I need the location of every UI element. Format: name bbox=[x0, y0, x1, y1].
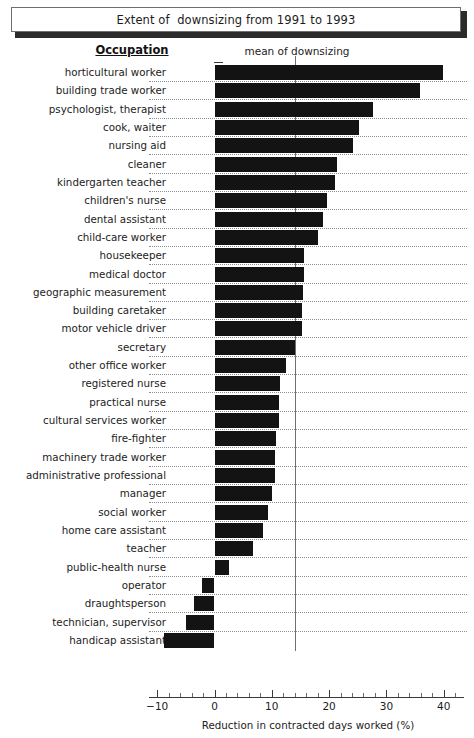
bar bbox=[215, 450, 276, 465]
bar bbox=[215, 505, 269, 520]
bar-row: manager bbox=[0, 485, 474, 503]
bar bbox=[215, 248, 305, 263]
bar-category-label: medical doctor bbox=[0, 268, 166, 280]
bar-row: children's nurse bbox=[0, 192, 474, 210]
x-axis-minor-tick bbox=[375, 693, 376, 697]
bar bbox=[215, 541, 254, 556]
bar-chart-plot-area: horticultural workerbuilding trade worke… bbox=[0, 0, 474, 738]
bar-category-label: teacher bbox=[0, 542, 166, 554]
x-axis-major-tick bbox=[157, 690, 158, 697]
bar bbox=[215, 157, 337, 172]
x-axis-tick-label: 0 bbox=[195, 700, 235, 712]
bar-category-label: handicap assistant bbox=[0, 634, 166, 646]
bar-category-label: fire-fighter bbox=[0, 432, 166, 444]
bar bbox=[215, 303, 302, 318]
bar-category-label: horticultural worker bbox=[0, 66, 166, 78]
x-axis-minor-tick bbox=[409, 693, 410, 697]
bar-row: motor vehicle driver bbox=[0, 320, 474, 338]
bar-row: operator bbox=[0, 577, 474, 595]
axis-top-cap bbox=[214, 62, 223, 63]
bar-category-label: cook, waiter bbox=[0, 121, 166, 133]
bar bbox=[215, 212, 323, 227]
bar-category-label: building trade worker bbox=[0, 84, 166, 96]
bar bbox=[215, 175, 336, 190]
x-axis-minor-tick bbox=[306, 693, 307, 697]
bar-row: machinery trade worker bbox=[0, 449, 474, 467]
bar bbox=[215, 267, 305, 282]
bar-row: teacher bbox=[0, 540, 474, 558]
x-axis-major-tick bbox=[444, 690, 445, 697]
bar-row: home care assistant bbox=[0, 522, 474, 540]
x-axis-minor-tick bbox=[318, 693, 319, 697]
bar bbox=[215, 395, 280, 410]
bar bbox=[215, 523, 263, 538]
bar-category-label: home care assistant bbox=[0, 524, 166, 536]
bar bbox=[215, 230, 318, 245]
x-axis-major-tick bbox=[215, 690, 216, 697]
bar-row: psychologist, therapist bbox=[0, 101, 474, 119]
x-axis-minor-tick bbox=[398, 693, 399, 697]
x-axis-minor-tick bbox=[283, 693, 284, 697]
x-axis-minor-tick bbox=[203, 693, 204, 697]
bar-category-label: administrative professional bbox=[0, 469, 166, 481]
bar bbox=[215, 193, 328, 208]
bar-category-label: registered nurse bbox=[0, 377, 166, 389]
x-axis-minor-tick bbox=[432, 693, 433, 697]
bar-category-label: draughtsperson bbox=[0, 597, 166, 609]
bar bbox=[215, 468, 275, 483]
x-axis-minor-tick bbox=[249, 693, 250, 697]
bar-category-label: dental assistant bbox=[0, 213, 166, 225]
bar-category-label: technician, supervisor bbox=[0, 616, 166, 628]
bar-category-label: other office worker bbox=[0, 359, 166, 371]
bar-category-label: psychologist, therapist bbox=[0, 103, 166, 115]
bar-row: nursing aid bbox=[0, 137, 474, 155]
bar bbox=[215, 65, 443, 80]
bar bbox=[194, 596, 214, 611]
bar bbox=[215, 431, 277, 446]
bar-category-label: kindergarten teacher bbox=[0, 176, 166, 188]
bar bbox=[215, 413, 280, 428]
x-axis-minor-tick bbox=[169, 693, 170, 697]
bar-row: housekeeper bbox=[0, 247, 474, 265]
bar bbox=[164, 633, 215, 648]
bar-category-label: cultural services worker bbox=[0, 414, 166, 426]
x-axis-line bbox=[149, 697, 464, 698]
x-axis-minor-tick bbox=[192, 693, 193, 697]
bar-row: cook, waiter bbox=[0, 119, 474, 137]
x-axis-label: Reduction in contracted days worked (%) bbox=[152, 719, 464, 731]
bar bbox=[215, 340, 295, 355]
bar-row: building caretaker bbox=[0, 302, 474, 320]
bar-category-label: operator bbox=[0, 579, 166, 591]
bar-row: cleaner bbox=[0, 156, 474, 174]
x-axis-minor-tick bbox=[180, 693, 181, 697]
bar-row: practical nurse bbox=[0, 394, 474, 412]
bar-row: handicap assistant bbox=[0, 632, 474, 650]
bar bbox=[215, 376, 281, 391]
x-axis-minor-tick bbox=[421, 693, 422, 697]
x-axis-minor-tick bbox=[260, 693, 261, 697]
bar-row: public-health nurse bbox=[0, 559, 474, 577]
x-axis-tick-label: 30 bbox=[366, 700, 406, 712]
bar-row: dental assistant bbox=[0, 211, 474, 229]
bar-row: technician, supervisor bbox=[0, 614, 474, 632]
bar-row: building trade worker bbox=[0, 82, 474, 100]
bar-category-label: public-health nurse bbox=[0, 561, 166, 573]
bar-category-label: cleaner bbox=[0, 158, 166, 170]
bar bbox=[202, 578, 214, 593]
x-axis-major-tick bbox=[272, 690, 273, 697]
bar-category-label: secretary bbox=[0, 341, 166, 353]
x-axis-minor-tick bbox=[295, 693, 296, 697]
bar bbox=[215, 285, 303, 300]
bar bbox=[215, 120, 360, 135]
bar-category-label: children's nurse bbox=[0, 194, 166, 206]
x-axis-minor-tick bbox=[363, 693, 364, 697]
bar-category-label: social worker bbox=[0, 506, 166, 518]
bar-category-label: motor vehicle driver bbox=[0, 322, 166, 334]
bar-row: other office worker bbox=[0, 357, 474, 375]
bar-category-label: nursing aid bbox=[0, 139, 166, 151]
bar-row: fire-fighter bbox=[0, 430, 474, 448]
x-axis-major-tick bbox=[329, 690, 330, 697]
x-axis-tick-label: 40 bbox=[424, 700, 464, 712]
bar-row: cultural services worker bbox=[0, 412, 474, 430]
bar-row: secretary bbox=[0, 339, 474, 357]
